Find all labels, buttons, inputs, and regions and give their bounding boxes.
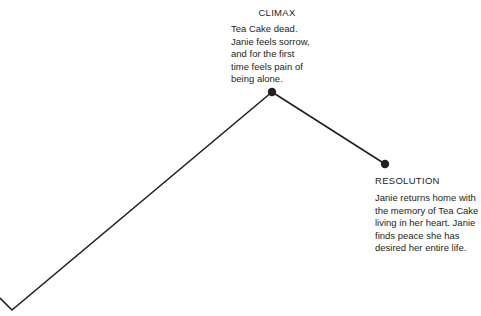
resolution-description-line-1: Janie returns home with [375,192,481,205]
climax-description-line-2: Janie feels sorrow, [231,36,323,49]
falling-action-line [272,92,385,164]
climax-description-line-3: and for the first [231,48,323,61]
resolution-description-line-4: finds peace she has [375,230,481,243]
resolution-heading: RESOLUTION [375,174,481,187]
rising-action-line [0,92,272,310]
resolution-description-line-3: living in her heart. Janie [375,217,481,230]
climax-description: Tea Cake dead. Janie feels sorrow, and f… [231,23,323,86]
climax-description-line-5: being alone. [231,73,323,86]
resolution-description: Janie returns home with the memory of Te… [375,192,481,255]
climax-heading: CLIMAX [231,6,323,19]
plot-diagram-canvas: CLIMAX Tea Cake dead. Janie feels sorrow… [0,0,481,316]
resolution-point-marker [381,160,389,168]
climax-annotation: CLIMAX Tea Cake dead. Janie feels sorrow… [231,6,323,86]
resolution-annotation: RESOLUTION Janie returns home with the m… [375,174,481,255]
climax-description-line-1: Tea Cake dead. [231,23,323,36]
resolution-description-line-5: desired her entire life. [375,242,481,255]
climax-point-marker [268,88,276,96]
resolution-description-line-2: the memory of Tea Cake [375,205,481,218]
climax-description-line-4: time feels pain of [231,61,323,74]
